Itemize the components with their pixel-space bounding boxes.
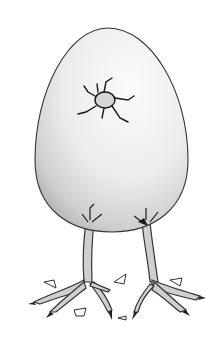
egg-with-legs-drawing [0, 0, 216, 343]
left-leg [34, 220, 112, 312]
right-leg [134, 222, 200, 312]
egg-shell [35, 28, 188, 232]
